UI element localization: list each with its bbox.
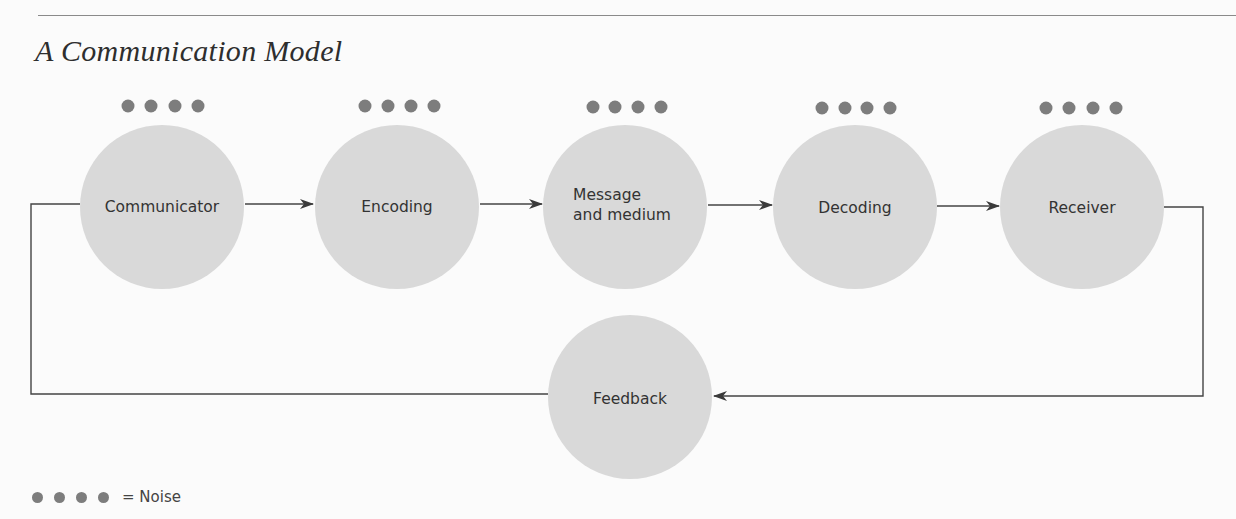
noise-dots: [122, 100, 1123, 115]
legend-label: = Noise: [122, 488, 181, 506]
noise-dot-icon: [54, 492, 65, 503]
noise-dot-icon: [76, 492, 87, 503]
label-receiver: Receiver: [1048, 198, 1115, 218]
legend: = Noise: [32, 488, 181, 506]
communication-diagram: [0, 0, 1236, 519]
noise-dot-icon: [98, 492, 109, 503]
label-feedback: Feedback: [593, 389, 667, 409]
label-communicator: Communicator: [105, 197, 219, 217]
label-message-line2: and medium: [573, 205, 671, 225]
noise-dot-icon: [32, 492, 43, 503]
label-message-medium: Message and medium: [573, 185, 671, 225]
label-message-line1: Message: [573, 185, 671, 205]
label-encoding: Encoding: [361, 197, 432, 217]
label-decoding: Decoding: [818, 198, 891, 218]
